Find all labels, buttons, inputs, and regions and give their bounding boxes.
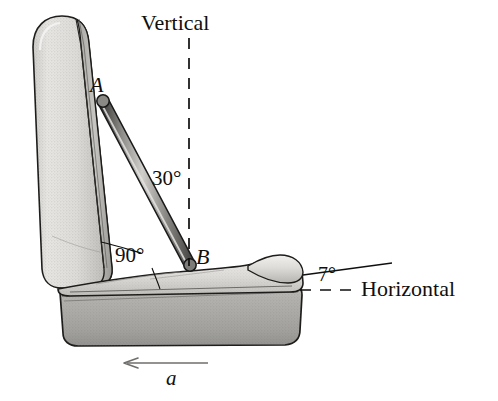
strut-end-b [184, 259, 196, 271]
label-angle-7: 7° [318, 264, 336, 284]
label-vertical: Vertical [141, 12, 209, 34]
cushion-slope-line [303, 263, 392, 275]
label-angle-30: 30° [152, 168, 181, 189]
figure-canvas [0, 0, 498, 401]
mechanics-figure: Vertical Horizontal 30° 90° 7° A B a [0, 0, 498, 401]
label-horizontal: Horizontal [361, 278, 455, 300]
seat-back [33, 16, 112, 288]
label-acceleration: a [166, 368, 177, 389]
label-point-a: A [90, 74, 103, 96]
label-angle-90: 90° [115, 245, 144, 266]
label-point-b: B [196, 246, 209, 268]
